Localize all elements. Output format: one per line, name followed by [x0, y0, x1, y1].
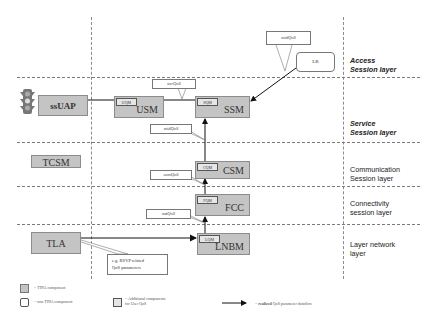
tla-label: TLA	[32, 238, 80, 249]
fcc-component[interactable]: FQM FCC	[195, 194, 250, 216]
layer-service-line1: Service	[350, 119, 396, 128]
usm-label: USM	[136, 104, 158, 115]
usm-component[interactable]: UQM USM	[114, 96, 164, 118]
net-qos-label: netQoS	[162, 211, 175, 216]
ssm-component[interactable]: SQM SSM	[195, 96, 250, 118]
layer-network-line1: Layer network	[350, 240, 395, 249]
layer-label-service: Service Session layer	[350, 119, 396, 137]
layer-label-connectivity: Connectivity session layer	[350, 199, 392, 217]
legend-swatch-tina	[20, 284, 29, 293]
tcsm-label: TCSM	[32, 156, 80, 167]
layer-network-line2: layer	[350, 249, 395, 258]
layer-access-line2: Session layer	[350, 65, 396, 74]
csm-label: CSM	[223, 165, 244, 176]
fqm-subcomponent[interactable]: FQM	[197, 196, 218, 204]
layer-access-line1: Access	[350, 56, 396, 65]
lb-component[interactable]: LB	[296, 52, 335, 72]
lnbm-component[interactable]: LQM LNBM	[197, 233, 250, 255]
legend-swatch-additional	[113, 298, 122, 307]
layer-label-access: Access Session layer	[350, 56, 396, 74]
traffic-light-icon	[20, 88, 35, 115]
mid-qos-top-label: midQoS	[281, 35, 296, 40]
sqm-subcomponent[interactable]: SQM	[197, 98, 218, 106]
mid-qos-label: midQoS	[164, 126, 179, 131]
net-qos-callout: netQoS	[146, 209, 191, 219]
layer-label-network: Layer network layer	[350, 240, 395, 258]
layer-service-line2: Session layer	[350, 128, 396, 137]
layer-label-communication: Communication Session layer	[350, 165, 400, 183]
mid-qos-callout: midQoS	[150, 124, 192, 134]
fcc-label: FCC	[225, 202, 244, 213]
layer-communication-line2: Session layer	[350, 174, 400, 183]
legend-additional-line2: for User QoS	[125, 301, 165, 306]
lb-label: LB	[312, 59, 318, 64]
com-qos-callout: comQoS	[150, 170, 192, 180]
legend-swatch-non-tina	[20, 298, 29, 307]
com-qos-label: comQoS	[163, 172, 178, 177]
lnbm-label: LNBM	[215, 241, 244, 252]
usr-qos-callout: usrQoS	[152, 79, 196, 89]
legend-tina-label: = TINA component	[34, 285, 65, 290]
csm-component[interactable]: CQM CSM	[195, 161, 250, 179]
rsvp-line1: e.g. RSVP related	[112, 257, 163, 264]
usr-qos-label: usrQoS	[167, 81, 181, 86]
uqm-subcomponent[interactable]: UQM	[116, 98, 137, 106]
layer-connectivity-line1: Connectivity	[350, 199, 392, 208]
legend-dataflow-label: = realized QoS parameter dataflow	[255, 301, 312, 306]
layer-connectivity-line2: session layer	[350, 208, 392, 217]
mid-qos-top-callout: midQoS	[266, 31, 311, 45]
legend-dataflow-rest: QoS parameter dataflow	[272, 301, 312, 306]
legend-additional-label: = Additional components for User QoS	[125, 296, 165, 306]
ssuap-label: ssUAP	[39, 101, 87, 111]
legend-non-tina-label: = non TINA component	[34, 299, 72, 304]
layer-communication-line1: Communication	[350, 165, 400, 174]
ssuap-component[interactable]: ssUAP	[38, 95, 88, 116]
cqm-subcomponent[interactable]: CQM	[197, 163, 218, 171]
ssm-label: SSM	[224, 104, 244, 115]
rsvp-callout: e.g. RSVP related QoS parameters	[107, 254, 168, 275]
rsvp-line2: QoS parameters	[112, 264, 163, 271]
tcsm-component[interactable]: TCSM	[31, 155, 81, 168]
legend-dataflow-bold: realized	[258, 301, 271, 306]
tla-component[interactable]: TLA	[31, 232, 81, 254]
